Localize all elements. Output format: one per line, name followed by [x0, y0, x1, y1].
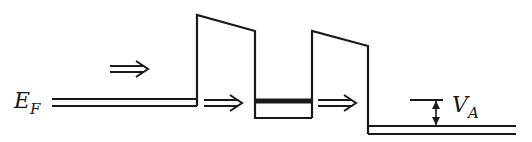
fermi-level-symbol: E — [14, 88, 30, 113]
applied-voltage-label: VA — [452, 92, 479, 117]
flow-arrows — [110, 61, 356, 111]
second-barrier — [312, 31, 368, 134]
double-arrow-icon — [318, 95, 356, 111]
double-arrow-icon — [110, 61, 148, 77]
band-diagram: EF VA — [0, 0, 532, 142]
applied-voltage-subscript: A — [468, 104, 479, 122]
double-arrow-icon — [204, 95, 242, 111]
applied-voltage-symbol: V — [452, 92, 468, 117]
fermi-level-label: EF — [14, 88, 40, 113]
band-diagram-svg — [0, 0, 532, 142]
fermi-level-subscript: F — [30, 100, 40, 118]
